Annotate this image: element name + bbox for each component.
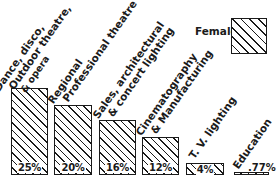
bar-value-label: 25%: [17, 162, 42, 173]
bar-category-label: T. V. lighting: [187, 95, 238, 161]
bar-regional-professional-theatre: 20%: [54, 105, 92, 175]
bar-value-label: 12%: [148, 162, 173, 173]
legend-swatch-hatch: [231, 18, 267, 54]
bar-sales-architectural-concert: 16%: [99, 120, 136, 175]
bar-value-label: 16%: [105, 162, 130, 173]
bar-value-label: 4%: [196, 164, 214, 175]
bar-cinematography-manufacturing: 12%: [142, 137, 179, 175]
bar-value-label: .77%: [248, 162, 276, 173]
bar-value-label: 20%: [60, 162, 85, 173]
bar-tv-lighting: 4%: [186, 163, 224, 175]
